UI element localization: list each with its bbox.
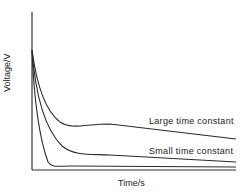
annotation-small-time-constant: Small time constant — [149, 146, 233, 156]
rc-discharge-diagram — [0, 0, 250, 196]
annotation-large-time-constant: Large time constant — [149, 116, 234, 126]
x-axis-label: Time/s — [118, 178, 145, 188]
y-axis-label: Voltage/V — [2, 53, 12, 92]
